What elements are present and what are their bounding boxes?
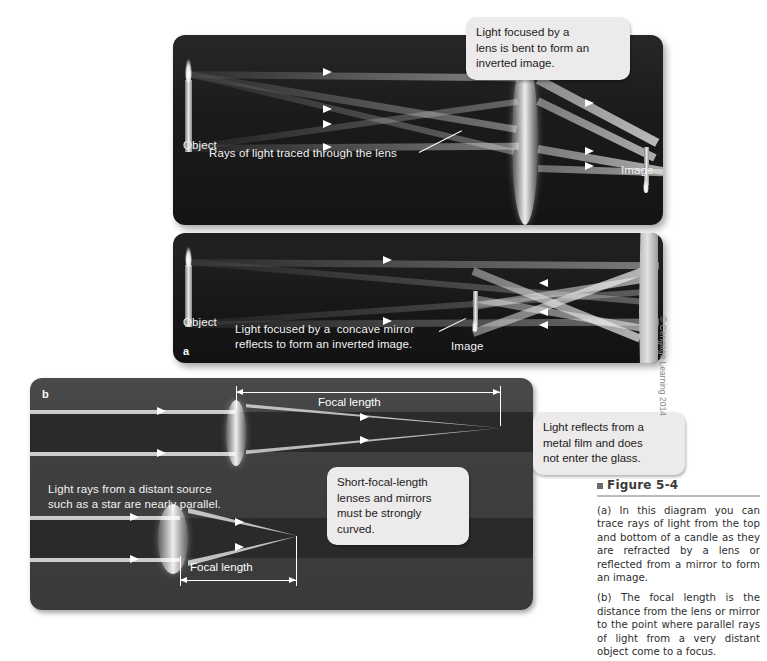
ray-arrow-icon — [585, 99, 594, 107]
image-candle-flame-mirror — [472, 319, 478, 332]
ray-arrow-icon — [323, 68, 332, 76]
image-label-mirror: Image — [451, 339, 483, 354]
concave-mirror — [639, 233, 658, 363]
parallel-ray — [30, 452, 235, 456]
focal-dim-arrow-left — [236, 389, 243, 395]
copyright-credit: © Cengage Learning 2014 — [658, 316, 668, 328]
focal-dim-tick-right — [500, 386, 501, 426]
callout-metal-film: Light reflects from a metal film and doe… — [533, 412, 685, 475]
panel-a-letter: a — [183, 345, 189, 357]
focal-dim-line-long — [236, 392, 500, 393]
ray-trace-label: Rays of light traced through the lens — [209, 146, 397, 161]
ray-arrow-icon — [323, 105, 332, 113]
figure-caption-b: (b) The focal length is the distance fro… — [597, 591, 760, 658]
focal-length-label-short: Focal length — [190, 561, 253, 573]
ray-arrow-icon — [130, 555, 139, 563]
focal-dim-arrow-left-short — [180, 577, 187, 583]
figure-caption-block: Figure 5-4 (a) In this diagram you can t… — [597, 478, 760, 661]
figure-title: Figure 5-4 — [597, 478, 760, 492]
figure-caption-a: (a) In this diagram you can trace rays o… — [597, 504, 760, 584]
figure-title-text: Figure 5-4 — [607, 478, 678, 492]
figure-title-rule — [597, 495, 760, 497]
image-candle-flame-lens — [643, 179, 649, 193]
ray-arrow-icon — [157, 449, 166, 457]
ray-arrow-icon — [360, 436, 369, 444]
ray-arrow-icon — [383, 256, 392, 264]
panel-b-letter: b — [42, 388, 49, 400]
ray-arrow-icon — [360, 413, 369, 421]
ray-arrow-icon — [539, 321, 548, 329]
long-focal-length-lens — [226, 400, 246, 466]
ray-arrow-icon — [585, 147, 594, 155]
focal-dim-tick-right-short — [296, 536, 297, 586]
object-label-mirror: Object — [183, 315, 217, 330]
ray-arrow-icon — [235, 518, 244, 526]
parallel-rays-label: Light rays from a distant source such as… — [48, 482, 221, 512]
short-focal-length-lens — [158, 504, 188, 574]
ray-arrow-icon — [539, 308, 548, 316]
focal-length-label-long: Focal length — [318, 396, 381, 408]
image-label-lens: Image — [621, 163, 653, 178]
ray-arrow-icon — [130, 513, 139, 521]
focal-dim-line-short — [180, 580, 296, 581]
ray-arrow-icon — [157, 407, 166, 415]
focal-dim-arrow-right-short — [289, 577, 296, 583]
parallel-ray — [30, 516, 180, 520]
ray-arrow-icon — [585, 162, 594, 170]
ray-arrow-icon — [539, 279, 548, 287]
focal-dim-arrow-right — [493, 389, 500, 395]
figure-caption-text: (a) In this diagram you can trace rays o… — [597, 504, 760, 658]
callout-lens-inverted-image: Light focused by a lens is bent to form … — [466, 17, 630, 80]
converging-lens — [512, 57, 538, 225]
panel-a-mirror-scene: Object Image Light focused by a concave … — [173, 233, 663, 363]
parallel-ray — [30, 410, 235, 414]
ray-arrow-icon — [323, 120, 332, 128]
ray-arrow-icon — [235, 543, 244, 551]
parallel-ray — [30, 558, 180, 562]
mirror-inline-callout: Light focused by a concave mirror reflec… — [235, 322, 414, 352]
callout-short-focal-length: Short-focal-length lenses and mirrors mu… — [327, 467, 469, 545]
figure-marker-icon — [597, 483, 603, 489]
